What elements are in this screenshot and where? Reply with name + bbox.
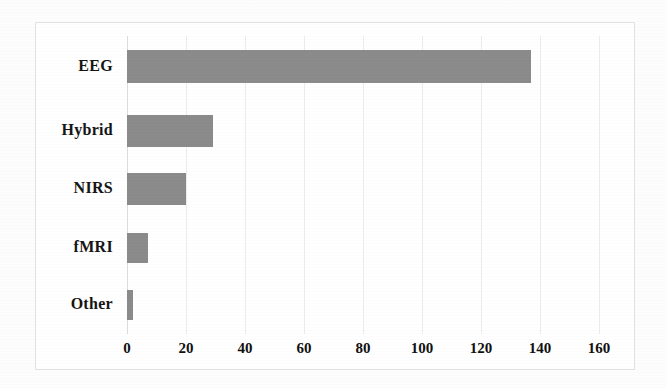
category-label-nirs: NIRS	[35, 179, 123, 197]
xtick-label-0: 0	[123, 340, 131, 357]
bar-other	[127, 290, 133, 320]
gridline-160	[599, 36, 600, 334]
category-label-fmri: fMRI	[35, 238, 123, 256]
xtick-label-160: 160	[588, 340, 611, 357]
chart-figure: EEGHybridNIRSfMRIOther 02040608010012014…	[0, 0, 666, 388]
xtick-label-100: 100	[411, 340, 434, 357]
category-label-other: Other	[35, 295, 123, 313]
category-label-eeg: EEG	[35, 57, 123, 75]
bar-fmri	[127, 233, 148, 263]
xtick-label-40: 40	[238, 340, 253, 357]
bar-eeg	[127, 50, 531, 83]
xtick-label-80: 80	[356, 340, 371, 357]
bar-series	[127, 36, 599, 334]
bar-nirs	[127, 173, 186, 205]
plot-area	[127, 36, 599, 334]
xtick-label-60: 60	[297, 340, 312, 357]
category-axis: EEGHybridNIRSfMRIOther	[35, 22, 123, 370]
bar-hybrid	[127, 115, 213, 147]
value-axis: 020406080100120140160	[0, 340, 666, 370]
xtick-label-120: 120	[470, 340, 493, 357]
xtick-label-20: 20	[179, 340, 194, 357]
category-label-hybrid: Hybrid	[35, 121, 123, 139]
xtick-label-140: 140	[529, 340, 552, 357]
